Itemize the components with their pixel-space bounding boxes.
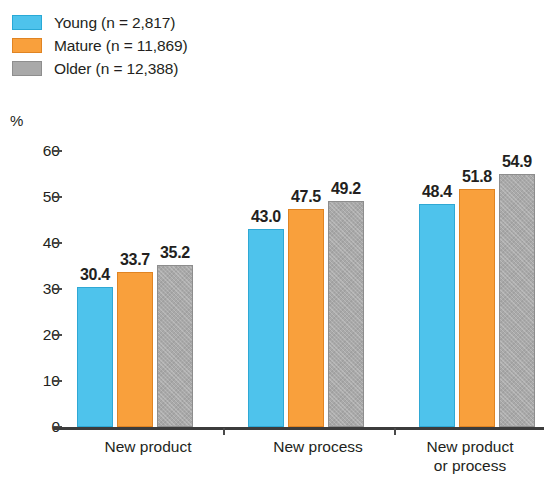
bar-mature-new-product-or-process: 51.8 (459, 189, 495, 427)
y-tick-mark-60 (53, 150, 62, 152)
bar-young-new-process: 43.0 (248, 229, 284, 427)
bar-chart-plot: % 60 50 40 30 20 10 0 30.4 33.7 35.2 43.… (0, 0, 550, 477)
bar-value-older-new-product-or-process: 54.9 (502, 153, 532, 171)
x-axis-line (53, 427, 544, 430)
bar-value-older-new-process: 49.2 (331, 180, 361, 198)
bar-young-new-product-or-process: 48.4 (419, 204, 455, 427)
bar-value-mature-new-process: 47.5 (291, 188, 321, 206)
bar-older-new-product: 35.2 (157, 265, 193, 427)
x-tick-mark-1 (223, 428, 225, 435)
bar-young-new-product: 30.4 (77, 287, 113, 427)
bar-value-young-new-product: 30.4 (80, 266, 110, 284)
bar-value-mature-new-product: 33.7 (120, 251, 150, 269)
bar-value-young-new-process: 43.0 (251, 208, 281, 226)
bar-value-mature-new-product-or-process: 51.8 (462, 168, 492, 186)
y-axis-unit-label: % (10, 112, 23, 129)
x-category-label-new-product-or-process: New product or process (400, 437, 540, 475)
bar-older-new-process: 49.2 (328, 201, 364, 427)
bar-older-new-product-or-process: 54.9 (499, 174, 535, 427)
y-tick-mark-50 (53, 196, 62, 198)
y-tick-mark-40 (53, 242, 62, 244)
bar-value-young-new-product-or-process: 48.4 (422, 183, 452, 201)
y-tick-mark-20 (53, 334, 62, 336)
y-tick-mark-30 (53, 288, 62, 290)
x-category-label-new-product: New product (58, 437, 238, 456)
x-tick-mark-2 (394, 428, 396, 435)
x-category-label-new-process: New process (228, 437, 408, 456)
bar-mature-new-product: 33.7 (117, 272, 153, 427)
bar-value-older-new-product: 35.2 (160, 244, 190, 262)
y-tick-mark-10 (53, 380, 62, 382)
bar-mature-new-process: 47.5 (288, 209, 324, 428)
